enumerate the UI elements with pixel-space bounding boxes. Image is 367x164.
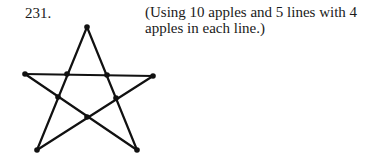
apple-dot [55, 94, 61, 100]
apple-dot [113, 95, 119, 101]
apple-dot [64, 71, 70, 77]
line-2 [87, 27, 137, 150]
apple-dot [150, 73, 156, 79]
line-5 [37, 76, 153, 150]
apple-dots [22, 24, 156, 153]
apple-dot [22, 71, 28, 77]
apple-dot [104, 72, 110, 78]
apple-dot [134, 147, 140, 153]
apple-dot [84, 24, 90, 30]
star-lines [25, 27, 153, 150]
star-figure [0, 0, 367, 164]
line-3 [25, 74, 153, 76]
apple-dot [84, 114, 90, 120]
apple-dot [34, 147, 40, 153]
